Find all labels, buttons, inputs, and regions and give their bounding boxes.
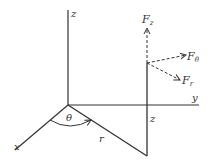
- z-height-label: z: [149, 113, 156, 124]
- force-r-arrow: [147, 63, 180, 80]
- theta-label: θ: [66, 112, 72, 123]
- x-axis-label: x: [14, 141, 20, 152]
- force-r-label: Fr: [181, 74, 194, 88]
- force-theta-label: Fθ: [186, 50, 200, 64]
- force-theta-arrow: [147, 55, 186, 63]
- y-axis-label: y: [191, 92, 198, 103]
- x-axis: [15, 105, 68, 150]
- r-label: r: [99, 133, 105, 144]
- force-z-label: Fz: [141, 13, 154, 27]
- cylindrical-coordinates-diagram: z y x θ r z Fz Fθ Fr: [0, 0, 210, 168]
- radius-line: [68, 105, 147, 156]
- z-axis-label: z: [70, 8, 77, 19]
